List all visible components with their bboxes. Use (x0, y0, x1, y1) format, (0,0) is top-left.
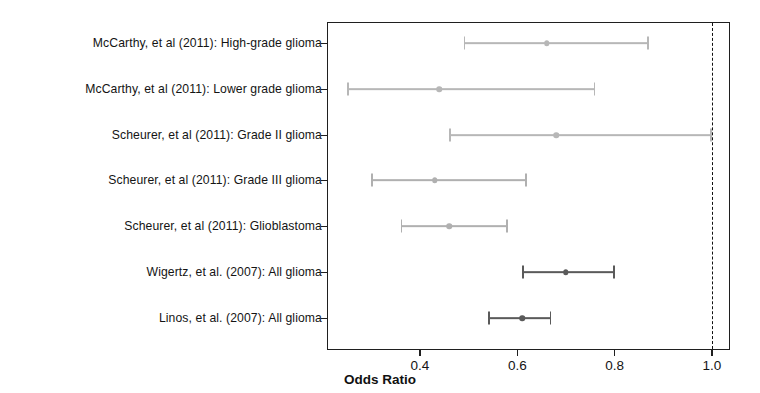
confidence-interval (464, 36, 649, 50)
confidence-interval-line (347, 88, 595, 90)
x-axis-title: Odds Ratio (0, 372, 760, 387)
x-axis-tick-label: 0.6 (508, 358, 527, 373)
confidence-interval-cap-left (488, 312, 490, 325)
confidence-interval-cap-right (710, 129, 712, 142)
point-estimate-marker (554, 132, 560, 138)
confidence-interval-cap-right (613, 266, 615, 279)
x-axis-tick (614, 350, 615, 356)
study-label: Linos, et al. (2007): All glioma (0, 312, 322, 325)
study-label: McCarthy, et al (2011): Lower grade glio… (0, 83, 322, 96)
point-estimate-marker (544, 40, 550, 46)
point-estimate-marker (563, 269, 569, 275)
confidence-interval-cap-right (550, 312, 552, 325)
confidence-interval-cap-left (449, 129, 451, 142)
confidence-interval-cap-left (522, 266, 524, 279)
study-label: Scheurer, et al (2011): Grade III glioma (0, 174, 322, 187)
confidence-interval-cap-left (401, 220, 403, 233)
point-estimate-marker (432, 177, 438, 183)
confidence-interval (371, 173, 527, 187)
point-estimate-marker (437, 86, 443, 92)
point-estimate-marker (519, 315, 525, 321)
confidence-interval-cap-left (464, 37, 466, 50)
confidence-interval-cap-left (347, 83, 349, 96)
confidence-interval (347, 82, 595, 96)
x-axis-tick (419, 350, 420, 356)
confidence-interval-cap-left (371, 174, 373, 187)
study-label: McCarthy, et al (2011): High-grade gliom… (0, 37, 322, 50)
x-axis-tick (711, 350, 712, 356)
confidence-interval (449, 128, 712, 142)
confidence-interval (401, 219, 508, 233)
study-label: Wigertz, et al. (2007): All glioma (0, 266, 322, 279)
confidence-interval-line (449, 134, 712, 136)
x-axis-tick (517, 350, 518, 356)
forest-plot: McCarthy, et al (2011): High-grade gliom… (0, 0, 760, 393)
confidence-interval-cap-right (506, 220, 508, 233)
null-reference-line (712, 23, 713, 349)
confidence-interval-line (401, 225, 508, 227)
x-axis-tick-label: 0.4 (411, 358, 430, 373)
study-label-column: McCarthy, et al (2011): High-grade gliom… (0, 0, 322, 393)
point-estimate-marker (446, 223, 452, 229)
x-axis-tick-label: 0.8 (605, 358, 624, 373)
confidence-interval-cap-right (525, 174, 527, 187)
confidence-interval-cap-right (594, 83, 596, 96)
study-label: Scheurer, et al (2011): Glioblastoma (0, 220, 322, 233)
confidence-interval (522, 265, 614, 279)
confidence-interval-line (464, 42, 649, 44)
x-axis-tick-label: 1.0 (703, 358, 722, 373)
study-label: Scheurer, et al (2011): Grade II glioma (0, 129, 322, 142)
confidence-interval-line (371, 179, 527, 181)
confidence-interval-cap-right (647, 37, 649, 50)
confidence-interval (488, 311, 551, 325)
